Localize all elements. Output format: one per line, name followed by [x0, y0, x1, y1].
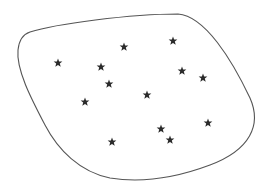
star-markers [54, 36, 213, 145]
star-icon [169, 36, 178, 44]
star-icon [178, 66, 187, 74]
star-icon [199, 73, 208, 81]
star-icon [105, 79, 114, 87]
star-icon [143, 90, 152, 98]
star-icon [108, 137, 117, 145]
blob-outline [18, 14, 255, 180]
star-icon [157, 124, 166, 132]
star-icon [81, 97, 90, 105]
blob-diagram [0, 0, 268, 192]
star-icon [97, 62, 106, 70]
star-icon [120, 42, 129, 50]
star-icon [204, 118, 213, 126]
star-icon [54, 58, 63, 66]
diagram-canvas [0, 0, 268, 192]
star-icon [166, 135, 175, 143]
